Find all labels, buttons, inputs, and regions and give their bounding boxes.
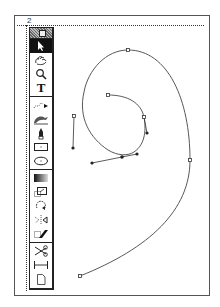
page-number: 2 xyxy=(27,17,31,25)
tool-gradient[interactable] xyxy=(30,171,52,185)
magnifier-icon xyxy=(35,68,47,80)
tool-selection[interactable] xyxy=(30,39,52,53)
rotate-icon xyxy=(34,200,48,212)
page-guide-left xyxy=(26,25,27,291)
tool-reflect[interactable] xyxy=(30,213,52,227)
reflect-icon xyxy=(33,214,49,226)
tool-grabber-hand[interactable] xyxy=(30,53,52,67)
pen-nib-icon xyxy=(36,127,46,140)
text-tool-glyph: T xyxy=(37,82,46,94)
gradient-fill-icon xyxy=(33,173,49,183)
scale-icon xyxy=(33,186,49,198)
tool-shear[interactable] xyxy=(30,227,52,241)
page-guide-top xyxy=(17,25,204,26)
shear-icon xyxy=(33,228,49,240)
measure-icon xyxy=(33,260,49,270)
toolbox-divider xyxy=(30,242,52,243)
page-icon xyxy=(35,273,47,286)
scissors-icon xyxy=(33,245,49,257)
tool-scissors[interactable] xyxy=(30,244,52,258)
blend-arc-icon xyxy=(33,113,49,125)
tool-zoom[interactable] xyxy=(30,67,52,81)
tool-blend[interactable] xyxy=(30,112,52,126)
ellipse-icon xyxy=(33,156,49,166)
freehand-icon xyxy=(33,99,49,111)
toolbox-divider xyxy=(30,169,52,170)
close-box-icon[interactable] xyxy=(39,30,46,37)
tool-pen[interactable] xyxy=(30,126,52,140)
tool-freehand[interactable] xyxy=(30,98,52,112)
tool-rectangle[interactable] xyxy=(30,140,52,154)
tool-ellipse[interactable] xyxy=(30,154,52,168)
arrow-pointer-icon xyxy=(35,40,47,52)
rectangle-icon xyxy=(33,142,49,152)
hand-icon xyxy=(34,54,48,66)
tool-rotate[interactable] xyxy=(30,199,52,213)
toolbox-palette: T xyxy=(29,27,54,290)
tool-scale[interactable] xyxy=(30,185,52,199)
tool-text[interactable]: T xyxy=(30,81,52,95)
tool-page[interactable] xyxy=(30,272,52,286)
toolbox-title-bar[interactable] xyxy=(30,28,52,39)
tool-measure[interactable] xyxy=(30,258,52,272)
toolbox-divider xyxy=(30,96,52,97)
